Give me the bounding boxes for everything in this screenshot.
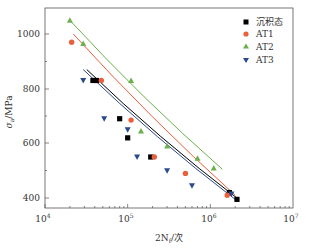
fit-line bbox=[73, 34, 235, 195]
legend-item: AT3 bbox=[243, 55, 274, 65]
triangle-up-data-point bbox=[80, 41, 86, 47]
square-data-point bbox=[117, 116, 122, 121]
square-marker-icon bbox=[244, 20, 249, 25]
legend-item: AT1 bbox=[243, 29, 273, 39]
x-axis-title: 2Nf/次 bbox=[155, 232, 183, 244]
y-tick-label: 800 bbox=[23, 84, 40, 94]
triangle-down-data-point bbox=[189, 183, 195, 189]
circle-data-point bbox=[152, 154, 157, 159]
triangle-up-marker-icon bbox=[243, 44, 249, 49]
x-tick-labels: 104 105 106 107 bbox=[35, 212, 298, 224]
circle-marker-icon bbox=[243, 31, 248, 36]
circle-data-point bbox=[99, 78, 104, 83]
x-tick-label: 106 bbox=[201, 212, 216, 224]
circle-data-point bbox=[225, 193, 230, 198]
fit-lines bbox=[70, 20, 239, 199]
circle-data-point bbox=[128, 117, 133, 122]
triangle-down-marker-icon bbox=[243, 58, 249, 63]
legend-label: AT1 bbox=[255, 29, 274, 39]
legend-item: AT2 bbox=[243, 42, 274, 52]
triangle-up-data-point bbox=[138, 128, 144, 134]
triangle-down-data-point bbox=[80, 78, 86, 84]
fit-line bbox=[87, 70, 239, 200]
x-tick-label: 107 bbox=[283, 212, 298, 224]
triangle-down-data-point bbox=[125, 127, 131, 133]
legend-label: AT3 bbox=[255, 55, 274, 65]
fit-line bbox=[70, 20, 223, 169]
triangle-up-data-point bbox=[67, 17, 73, 23]
y-tick-label: 600 bbox=[23, 138, 40, 148]
triangle-up-data-point bbox=[128, 77, 134, 83]
square-data-point bbox=[234, 197, 239, 202]
fit-line bbox=[83, 70, 235, 200]
legend-label: 沉积态 bbox=[256, 16, 283, 27]
square-data-point bbox=[94, 78, 99, 83]
triangle-down-data-point bbox=[134, 155, 140, 161]
triangle-down-data-point bbox=[164, 168, 170, 174]
x-axis bbox=[45, 204, 289, 208]
circle-data-point bbox=[69, 40, 74, 45]
legend-label: AT2 bbox=[255, 42, 274, 52]
y-tick-label: 1000 bbox=[17, 29, 40, 39]
y-tick-labels: 1000 800 600 400 bbox=[17, 29, 40, 203]
y-axis-title: σa/MPa bbox=[4, 95, 15, 129]
circle-data-point bbox=[183, 171, 188, 176]
y-axis bbox=[45, 34, 49, 198]
legend-item: 沉积态 bbox=[244, 16, 284, 27]
triangle-down-data-point bbox=[101, 116, 107, 122]
x-tick-label: 104 bbox=[35, 212, 50, 224]
legend: 沉积态 AT1 AT2 AT3 bbox=[243, 16, 283, 65]
triangle-up-data-point bbox=[211, 165, 217, 171]
y-tick-label: 400 bbox=[23, 193, 40, 203]
x-tick-label: 105 bbox=[118, 212, 133, 224]
square-data-point bbox=[125, 135, 130, 140]
fatigue-sn-chart: 1000 800 600 400 104 105 106 107 2Nf/次 σ… bbox=[0, 0, 310, 249]
